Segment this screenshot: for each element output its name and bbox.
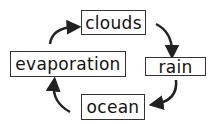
node-label: clouds xyxy=(85,13,142,33)
arrow-ocean-to-evaporation xyxy=(54,84,70,112)
node-ocean: ocean xyxy=(81,94,145,120)
arrow-evaporation-to-clouds xyxy=(50,27,74,44)
arrow-rain-to-ocean xyxy=(156,80,176,104)
node-label: rain xyxy=(158,57,192,77)
node-label: evaporation xyxy=(15,54,120,74)
arrow-clouds-to-rain xyxy=(156,24,172,52)
node-clouds: clouds xyxy=(81,10,146,35)
node-label: ocean xyxy=(87,97,140,117)
node-evaporation: evaporation xyxy=(10,51,126,77)
node-rain: rain xyxy=(145,57,206,76)
